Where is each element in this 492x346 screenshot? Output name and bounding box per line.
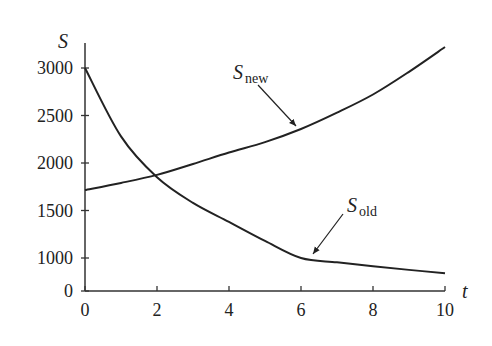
x-tick-label: 0 bbox=[81, 300, 90, 320]
x-tick-label: 4 bbox=[225, 300, 234, 320]
x-tick-label: 10 bbox=[436, 300, 454, 320]
x-axis-title: t bbox=[462, 280, 468, 302]
annotations: SnewSold bbox=[233, 61, 377, 254]
series-label-new: Snew bbox=[233, 61, 269, 86]
curve-s-old bbox=[85, 68, 445, 273]
x-tick-label: 2 bbox=[153, 300, 162, 320]
series-label-old: Sold bbox=[347, 194, 377, 219]
x-tick-label: 6 bbox=[297, 300, 306, 320]
y-tick-label: 0 bbox=[64, 281, 73, 301]
line-chart: S t 0246810 010001500200025003000 SnewSo… bbox=[0, 0, 492, 346]
y-tick-label: 1500 bbox=[37, 201, 73, 221]
y-tick-label: 3000 bbox=[37, 58, 73, 78]
y-tick-label: 1000 bbox=[37, 248, 73, 268]
arrow-icon bbox=[258, 85, 296, 126]
curve-s-new bbox=[85, 47, 445, 190]
y-tick-label: 2000 bbox=[37, 153, 73, 173]
y-tick-label: 2500 bbox=[37, 106, 73, 126]
arrow-icon bbox=[313, 214, 343, 254]
x-tick-label: 8 bbox=[369, 300, 378, 320]
y-axis-title: S bbox=[58, 30, 68, 52]
y-ticks: 010001500200025003000 bbox=[37, 58, 89, 301]
